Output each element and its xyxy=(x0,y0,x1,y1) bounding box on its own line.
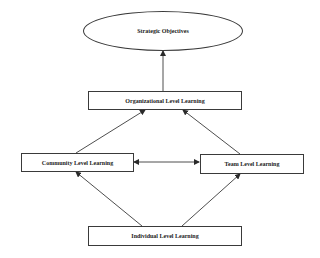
edge-community-to-org xyxy=(76,110,145,153)
node-label: Individual Level Learning xyxy=(131,233,198,239)
node-label: Community Level Learning xyxy=(42,160,113,166)
node-strategic-objectives: Strategic Objectives xyxy=(83,11,243,51)
node-community-level-learning: Community Level Learning xyxy=(21,153,134,172)
node-individual-level-learning: Individual Level Learning xyxy=(88,226,242,246)
node-organizational-level-learning: Organizational Level Learning xyxy=(88,91,242,110)
edge-individual-to-team xyxy=(182,174,240,226)
node-label: Team Level Learning xyxy=(225,161,280,167)
edge-team-to-org xyxy=(183,110,240,154)
node-label: Strategic Objectives xyxy=(137,28,188,34)
node-label: Organizational Level Learning xyxy=(125,98,204,104)
node-team-level-learning: Team Level Learning xyxy=(200,154,304,174)
edge-individual-to-community xyxy=(76,172,142,226)
